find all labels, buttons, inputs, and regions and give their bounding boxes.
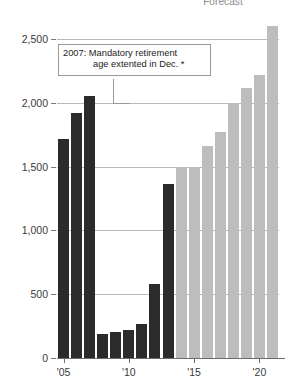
x-axis-label-15: '15 xyxy=(187,366,201,378)
y-axis-label-2000: 2,000 xyxy=(0,97,48,109)
bar-05-actual xyxy=(58,139,69,358)
x-axis-tick-15 xyxy=(194,358,195,363)
bar-19-forecast xyxy=(241,88,252,359)
bar-20-forecast xyxy=(254,75,265,358)
bar-10-actual xyxy=(123,330,134,358)
bar-11-actual xyxy=(136,324,147,358)
bar-09-actual xyxy=(110,332,121,358)
bar-15-forecast xyxy=(189,167,200,358)
y-axis-tick-1000 xyxy=(51,230,56,231)
y-axis-tick-500 xyxy=(51,294,56,295)
bar-18-forecast xyxy=(228,103,239,358)
y-axis-label-0: 0 xyxy=(0,352,48,364)
y-axis-tick-1500 xyxy=(51,167,56,168)
bar-08-actual xyxy=(97,334,108,358)
x-axis-tick-10 xyxy=(129,358,130,363)
x-axis-label-05: '05 xyxy=(57,366,71,378)
x-axis-tick-05 xyxy=(64,358,65,363)
annotation-line-2: age extented in Dec. * xyxy=(63,59,206,70)
bar-06-actual xyxy=(71,113,82,358)
y-axis-label-1500: 1,500 xyxy=(0,161,48,173)
y-axis-tick-2000 xyxy=(51,103,56,104)
y-axis-tick-2500 xyxy=(51,39,56,40)
x-axis-label-10: '10 xyxy=(122,366,136,378)
y-axis-tick-0 xyxy=(51,358,56,359)
bar-chart: Forecast 05001,0001,5002,0002,500 '05'10… xyxy=(0,0,287,391)
annotation-line-1: 2007: Mandatory retirement xyxy=(63,48,206,59)
bar-13-actual xyxy=(163,184,174,358)
bar-17-forecast xyxy=(215,132,226,358)
annotation-callout: 2007: Mandatory retirement age extented … xyxy=(58,44,211,76)
bar-21-forecast xyxy=(267,26,278,358)
y-axis-label-2500: 2,500 xyxy=(0,33,48,45)
x-axis-line xyxy=(57,358,285,359)
x-axis-label-20: '20 xyxy=(253,366,267,378)
bar-14-forecast xyxy=(176,167,187,358)
bar-12-actual xyxy=(149,284,160,358)
y-axis-label-500: 500 xyxy=(0,288,48,300)
bar-07-actual xyxy=(84,96,95,358)
forecast-caption: Forecast xyxy=(178,0,268,7)
annotation-leader-line xyxy=(113,79,114,104)
annotation-leader-elbow xyxy=(113,103,130,104)
y-axis-label-1000: 1,000 xyxy=(0,224,48,236)
x-axis-tick-20 xyxy=(259,358,260,363)
bar-16-forecast xyxy=(202,146,213,358)
